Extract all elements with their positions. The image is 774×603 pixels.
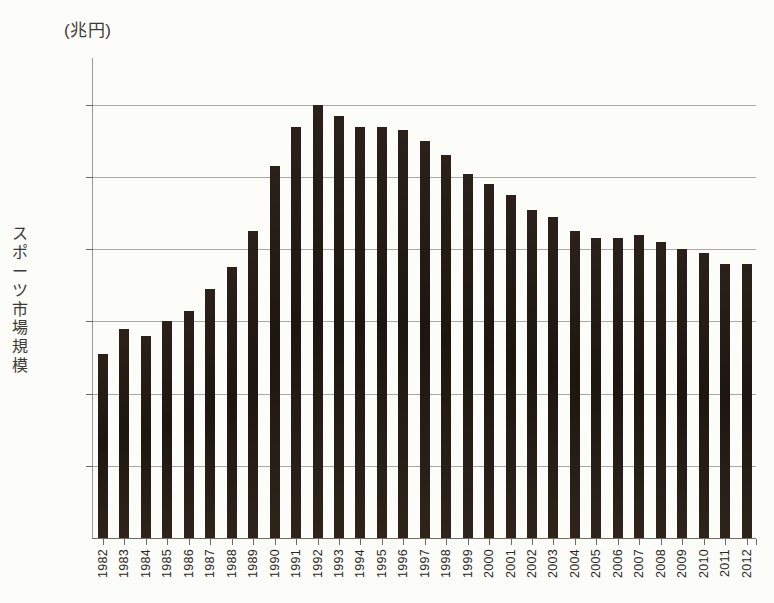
- x-tick-mark: [360, 539, 361, 545]
- x-tick-mark: [489, 539, 490, 545]
- x-tick-label: 1991: [289, 549, 303, 578]
- x-tick-mark: [318, 539, 319, 545]
- bar: [548, 217, 558, 538]
- x-tick-mark: [382, 539, 383, 545]
- x-tick-label: 1987: [203, 549, 217, 578]
- bar: [334, 116, 344, 538]
- x-tick-label: 2006: [611, 549, 625, 578]
- x-tick-label: 1999: [461, 549, 475, 578]
- y-tick-mark: [86, 466, 93, 467]
- x-tick-label: 2000: [482, 549, 496, 578]
- bar: [591, 238, 601, 538]
- bar: [141, 336, 151, 538]
- bar: [441, 155, 451, 538]
- x-tick-mark: [596, 539, 597, 545]
- x-tick-label: 2008: [654, 549, 668, 578]
- x-tick-label: 1996: [396, 549, 410, 578]
- x-tick-label: 1993: [332, 549, 346, 578]
- x-tick-label: 1984: [139, 549, 153, 578]
- x-tick-label: 2003: [546, 549, 560, 578]
- x-tick-label: 1994: [353, 549, 367, 578]
- x-tick-mark: [639, 539, 640, 545]
- bar: [398, 130, 408, 538]
- bar: [184, 311, 194, 538]
- bar: [377, 127, 387, 538]
- bar: [313, 105, 323, 538]
- x-tick-mark: [167, 539, 168, 545]
- x-tick-label: 1995: [375, 549, 389, 578]
- bar: [227, 267, 237, 538]
- x-tick-mark: [618, 539, 619, 545]
- bar: [570, 231, 580, 538]
- x-tick-mark: [553, 539, 554, 545]
- bar: [355, 127, 365, 538]
- x-tick-mark: [253, 539, 254, 545]
- x-tick-label: 1990: [268, 549, 282, 578]
- x-tick-label: 2004: [568, 549, 582, 578]
- bar: [484, 184, 494, 538]
- x-tick-mark: [232, 539, 233, 545]
- x-tick-mark: [124, 539, 125, 545]
- x-tick-mark: [575, 539, 576, 545]
- x-tick-label: 1989: [246, 549, 260, 578]
- x-tick-mark: [661, 539, 662, 545]
- bar: [270, 166, 280, 538]
- bar: [463, 174, 473, 539]
- y-axis-title: スポーツ市場規模: [6, 225, 34, 376]
- bar: [613, 238, 623, 538]
- bar: [677, 249, 687, 538]
- x-tick-mark: [747, 539, 748, 545]
- bar: [248, 231, 258, 538]
- bar: [656, 242, 666, 538]
- x-tick-label: 1988: [225, 549, 239, 578]
- x-tick-label: 2007: [632, 549, 646, 578]
- x-tick-mark: [446, 539, 447, 545]
- bar: [291, 127, 301, 538]
- bar: [162, 321, 172, 538]
- y-tick-mark: [86, 249, 93, 250]
- x-tick-label: 2009: [675, 549, 689, 578]
- x-tick-mark: [146, 539, 147, 545]
- x-tick-label: 1997: [418, 549, 432, 578]
- bar: [506, 195, 516, 538]
- x-tick-mark: [210, 539, 211, 545]
- bar: [720, 264, 730, 538]
- x-tick-label: 2012: [740, 549, 754, 578]
- x-tick-mark: [103, 539, 104, 545]
- chart-figure: (兆円) スポーツ市場規模 19821983198419851986198719…: [0, 0, 774, 603]
- x-axis-end-tick: [756, 539, 757, 545]
- x-tick-label: 1983: [117, 549, 131, 578]
- x-tick-label: 2011: [718, 549, 732, 577]
- y-tick-mark: [86, 394, 93, 395]
- bar: [420, 141, 430, 538]
- bar: [98, 354, 108, 538]
- x-tick-label: 2005: [589, 549, 603, 578]
- bar-series: [92, 58, 756, 538]
- x-tick-label: 2010: [697, 549, 711, 578]
- bar: [119, 329, 129, 538]
- x-tick-mark: [725, 539, 726, 545]
- x-tick-mark: [704, 539, 705, 545]
- bar: [742, 264, 752, 538]
- bar: [634, 235, 644, 538]
- x-tick-mark: [403, 539, 404, 545]
- x-tick-mark: [682, 539, 683, 545]
- x-tick-label: 1982: [96, 549, 110, 578]
- x-tick-mark: [339, 539, 340, 545]
- x-tick-label: 1985: [160, 549, 174, 578]
- x-tick-mark: [532, 539, 533, 545]
- bar: [527, 210, 537, 538]
- x-tick-label: 2001: [504, 549, 518, 578]
- x-tick-label: 1992: [311, 549, 325, 578]
- x-tick-label: 1998: [439, 549, 453, 578]
- x-tick-mark: [296, 539, 297, 545]
- y-axis-unit-label: (兆円): [64, 16, 111, 41]
- x-tick-label: 1986: [182, 549, 196, 578]
- y-tick-mark: [86, 105, 93, 106]
- x-tick-mark: [425, 539, 426, 545]
- bar: [205, 289, 215, 538]
- x-tick-label: 2002: [525, 549, 539, 578]
- x-tick-mark: [275, 539, 276, 545]
- y-tick-mark: [86, 321, 93, 322]
- y-tick-mark: [86, 177, 93, 178]
